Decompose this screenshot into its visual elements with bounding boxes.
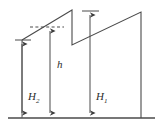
- sawtooth-profile: [22, 10, 141, 118]
- label-h: h: [57, 58, 63, 70]
- label-H1: H1: [95, 90, 107, 105]
- label-h-base: h: [57, 58, 63, 70]
- label-H2-subscript: 2: [36, 97, 40, 105]
- label-H1-subscript: 1: [104, 97, 108, 105]
- label-H2: H2: [27, 90, 40, 105]
- sawtooth-diagram-svg: h H2 H1: [0, 0, 161, 130]
- figure-container: h H2 H1: [0, 0, 161, 130]
